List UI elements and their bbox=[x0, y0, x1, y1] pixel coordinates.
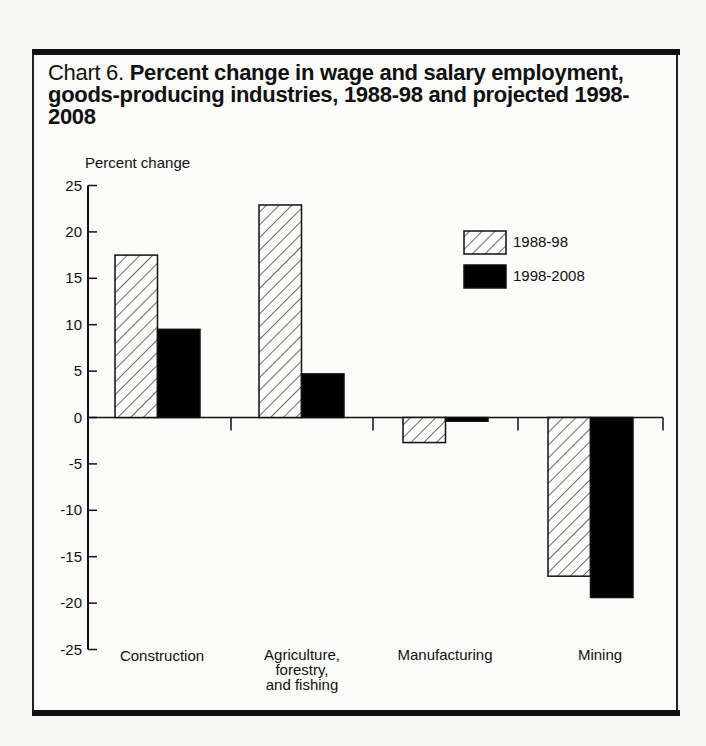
bars bbox=[115, 205, 633, 598]
y-tick-label: -10 bbox=[42, 501, 82, 518]
legend-swatch-hatched bbox=[464, 231, 506, 254]
category-label-agriculture: Agriculture, forestry, and fishing bbox=[240, 647, 364, 692]
y-tick-label: -15 bbox=[42, 548, 82, 565]
category-label-mining: Mining bbox=[560, 647, 640, 662]
legend-swatch-solid bbox=[464, 265, 506, 288]
y-tick-label: 25 bbox=[42, 177, 82, 194]
y-tick-label: 15 bbox=[42, 269, 82, 286]
y-tick-label: 5 bbox=[42, 362, 82, 379]
y-tick-label: -5 bbox=[42, 455, 82, 472]
y-tick-label: 10 bbox=[42, 316, 82, 333]
bar-manufacturing-1998-2008 bbox=[446, 418, 489, 422]
bar-manufacturing-1988-98 bbox=[403, 418, 446, 443]
legend-label-1988-98: 1988-98 bbox=[513, 233, 568, 250]
y-tick-label: 20 bbox=[42, 223, 82, 240]
y-tick-label: 0 bbox=[42, 409, 82, 426]
bar-mining-1998-2008 bbox=[591, 418, 634, 598]
category-label-agriculture-line3: and fishing bbox=[240, 677, 364, 692]
category-label-manufacturing: Manufacturing bbox=[375, 647, 515, 662]
category-label-agriculture-line2: forestry, bbox=[240, 662, 364, 677]
bar-chart bbox=[0, 0, 706, 746]
bar-agriculture-1998-2008 bbox=[302, 374, 345, 418]
legend-label-1998-2008: 1998-2008 bbox=[513, 267, 585, 284]
category-label-agriculture-line1: Agriculture, bbox=[240, 647, 364, 662]
bar-construction-1988-98 bbox=[115, 255, 158, 417]
bar-agriculture-1988-98 bbox=[259, 205, 302, 418]
bar-construction-1998-2008 bbox=[158, 329, 201, 417]
category-label-construction: Construction bbox=[100, 648, 224, 663]
y-tick-label: -20 bbox=[42, 594, 82, 611]
y-tick-label: -25 bbox=[42, 641, 82, 658]
legend-swatches bbox=[464, 231, 506, 288]
bar-mining-1988-98 bbox=[548, 418, 591, 577]
